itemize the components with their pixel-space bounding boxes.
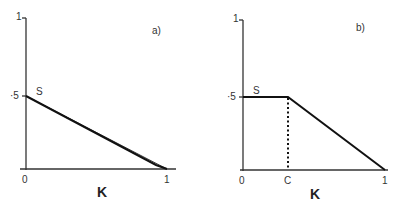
panel-a-curves (26, 96, 167, 169)
panel-b-ytick-1: 1 (233, 13, 239, 24)
panel-b-xlabel: K (310, 186, 320, 202)
panel-b-ytick-half: ·5 (227, 91, 236, 102)
panel-a-xtick-0: 0 (22, 174, 28, 185)
panel-b-xtick-0: 0 (239, 175, 245, 186)
panel-b-xtick-c: C (284, 175, 291, 186)
panel-a-xtick-1: 1 (164, 174, 170, 185)
panel-a-curve-label: S (36, 86, 43, 97)
panel-a-label: a) (152, 25, 161, 36)
panel-b-curves (243, 97, 385, 170)
panel-a-ytick-half: ·5 (10, 90, 19, 101)
panel-b-curve-label: S (253, 85, 260, 96)
panel-b-label: b) (356, 22, 365, 33)
panel-b-axes (239, 20, 388, 171)
panel-a-xlabel: K (97, 184, 107, 200)
charts-canvas (0, 0, 398, 208)
panel-b-xtick-1: 1 (382, 175, 388, 186)
panel-a-axes (20, 18, 176, 170)
panel-a-ytick-1: 1 (16, 11, 22, 22)
